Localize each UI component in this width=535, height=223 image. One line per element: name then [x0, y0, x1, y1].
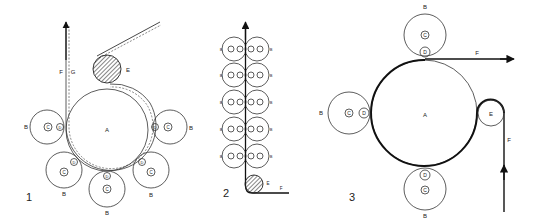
roller-diagram-figure: A E F G C D B C D B C	[0, 0, 535, 223]
label-d: D	[106, 174, 109, 179]
label-b: B	[62, 191, 66, 197]
label-c: C	[166, 125, 170, 130]
label-b: B	[270, 127, 273, 132]
roller-group-bottom: C D B	[404, 168, 446, 219]
diagram-1: A E F G C D B C D B C	[24, 22, 193, 216]
label-b: B	[220, 127, 223, 132]
label-b: B	[270, 73, 273, 78]
roller-e-hatched	[245, 175, 263, 193]
label-e: E	[489, 111, 493, 117]
label-f: F	[59, 69, 63, 75]
label-d: D	[423, 172, 427, 178]
incoming-web	[97, 22, 160, 56]
web-path	[246, 28, 290, 193]
label-d: D	[154, 125, 157, 130]
label-b: B	[423, 213, 427, 219]
label-b: B	[220, 73, 223, 78]
roller-group-right: C D B	[152, 110, 194, 144]
roller-pair: B B	[220, 90, 273, 114]
label-c: C	[149, 170, 153, 175]
label-b: B	[149, 192, 153, 198]
diagram-2: B B B B B B B B	[220, 22, 289, 199]
roller-group-top: C D B	[404, 4, 446, 57]
label-b: B	[105, 210, 109, 216]
diagram-number: 1	[26, 191, 32, 203]
label-e: E	[126, 67, 130, 73]
roller-pair: B B	[220, 63, 273, 87]
roller-group-left: C D B	[319, 92, 370, 134]
label-d: D	[73, 160, 76, 165]
diagram-3: A E F F C D B C D B C D	[319, 4, 514, 219]
label-b: B	[220, 47, 223, 52]
diagram-number: 3	[349, 191, 355, 203]
label-b: B	[270, 154, 273, 159]
label-a: A	[423, 112, 427, 118]
incoming-web-dashed	[99, 25, 161, 58]
label-f-out: F	[475, 50, 479, 56]
label-c: C	[105, 187, 109, 192]
label-c: C	[46, 125, 50, 130]
label-b: B	[423, 4, 427, 10]
label-d: D	[362, 110, 366, 116]
label-b: B	[24, 124, 28, 130]
label-b: B	[319, 110, 323, 116]
roller-pair: B B	[220, 37, 273, 61]
label-c: C	[423, 32, 427, 38]
roller-group-lower-right: C D B	[133, 152, 169, 198]
label-f: F	[280, 186, 283, 191]
web-path-outer	[66, 24, 156, 170]
label-c: C	[347, 110, 351, 116]
roller-e-hatched	[93, 55, 121, 83]
label-a: A	[105, 127, 109, 133]
roller-group-left: C D B	[24, 110, 64, 144]
diagram-number: 2	[223, 187, 229, 199]
label-b: B	[270, 100, 273, 105]
roller-group-bottom: C D B	[89, 171, 125, 216]
roller-group-lower-left: C D B	[46, 152, 82, 197]
label-e: E	[266, 181, 269, 186]
label-d: D	[59, 125, 62, 130]
roller-pair: B B	[220, 144, 273, 168]
label-g: G	[71, 69, 76, 75]
label-b: B	[270, 47, 273, 52]
label-b: B	[189, 125, 193, 131]
label-b: B	[220, 100, 223, 105]
label-d: D	[423, 49, 427, 55]
roller-stack: B B B B B B B B	[220, 37, 273, 168]
label-f-in: F	[507, 137, 511, 143]
label-d: D	[141, 160, 144, 165]
label-c: C	[423, 187, 427, 193]
label-c: C	[62, 170, 66, 175]
label-b: B	[220, 154, 223, 159]
roller-pair: B B	[220, 117, 273, 141]
